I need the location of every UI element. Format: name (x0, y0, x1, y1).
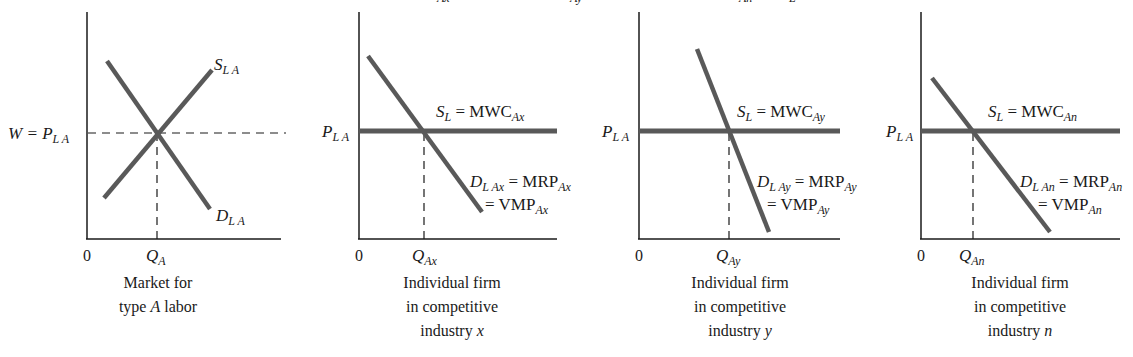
vmp-label: = VMPAy (767, 195, 830, 217)
demand-curve (368, 56, 482, 212)
demand-label: DL An = MRPAn (1019, 172, 1122, 194)
demand-label: DL Ax = MRPAx (469, 172, 572, 194)
demand-label: DL A (215, 206, 246, 228)
supply-label: SL A (214, 55, 240, 77)
supply-curve (104, 70, 212, 198)
price-label: PL A (885, 122, 914, 144)
caption-line-1: Market for (124, 274, 194, 291)
wage-label: W = PL A (8, 124, 70, 146)
caption-line-2: in competitive (406, 298, 498, 316)
origin-label: 0 (917, 247, 925, 264)
supply-label: SL = MWCAn (988, 102, 1077, 124)
caption-line-1: Individual firm (403, 274, 501, 291)
demand-label: DL Ay = MRPAy (756, 172, 857, 194)
vmp-label: = VMPAx (485, 195, 549, 217)
panel-market-type-a-labor: W = PL A SL A DL A 0 QA Market for type … (8, 12, 286, 316)
labor-market-diagram: Ax Ay An L W = PL A SL A DL A 0 QA Marke… (0, 0, 1133, 357)
origin-label: 0 (635, 247, 643, 264)
price-label: PL A (321, 122, 350, 144)
caption-line-1: Individual firm (971, 274, 1069, 291)
quantity-label: QA (146, 246, 166, 268)
caption-line-3: industry y (708, 322, 772, 340)
caption-line-1: Individual firm (691, 274, 789, 291)
panel-industry-y: PL A SL = MWCAy DL Ay = MRPAy = VMPAy 0 … (601, 12, 857, 340)
vmp-label: = VMPAn (1038, 195, 1102, 217)
top-cut-text: Ax Ay An L (436, 0, 796, 5)
caption-line-2: type A labor (119, 298, 198, 316)
origin-label: 0 (83, 247, 91, 264)
cut-sub-ay: Ay (569, 0, 583, 5)
panel-industry-x: PL A SL = MWCAx DL Ax = MRPAx = VMPAx 0 … (321, 12, 572, 340)
origin-label: 0 (355, 247, 363, 264)
quantity-label: QAn (959, 246, 985, 268)
price-label: PL A (601, 122, 630, 144)
quantity-label: QAx (412, 246, 438, 268)
demand-curve (697, 49, 769, 232)
caption-line-3: industry x (420, 322, 484, 340)
cut-sub-l: L (788, 0, 796, 5)
cut-sub-ax: Ax (436, 0, 450, 5)
caption-line-2: in competitive (694, 298, 786, 316)
panel-industry-n: PL A SL = MWCAn DL An = MRPAn = VMPAn 0 … (885, 12, 1122, 340)
cut-sub-an: An (738, 0, 752, 5)
caption-line-3: industry n (988, 322, 1052, 340)
quantity-label: QAy (716, 246, 741, 268)
caption-line-2: in competitive (974, 298, 1066, 316)
supply-label: SL = MWCAx (436, 102, 525, 124)
supply-label: SL = MWCAy (737, 102, 825, 124)
